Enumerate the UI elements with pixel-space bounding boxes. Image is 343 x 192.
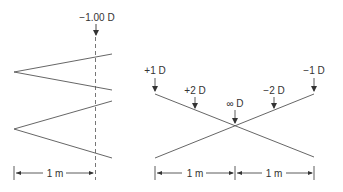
label-infinity-d: ∞ D <box>226 98 243 109</box>
ray-upper-1 <box>14 54 112 72</box>
distance-scale-left: 1 m <box>14 166 94 180</box>
right-panel: +1 D +2 D ∞ D −2 D −1 D 1 m 1 m <box>144 65 324 180</box>
label-minus-1d: −1 D <box>303 65 324 76</box>
ray-upper-2 <box>14 101 112 129</box>
ray-lower-2 <box>14 129 112 158</box>
vergence-diagram: −1.00 D 1 m +1 D +2 D ∞ D −2 D −1 D <box>0 0 343 192</box>
ray-lower-1 <box>14 72 112 90</box>
scale-label-right: 1 m <box>266 168 283 179</box>
focal-point-label: −1.00 D <box>79 12 114 23</box>
scale-label-left: 1 m <box>187 168 204 179</box>
label-plus-2d: +2 D <box>184 85 205 96</box>
label-plus-1d: +1 D <box>144 65 165 76</box>
label-minus-2d: −2 D <box>263 85 284 96</box>
distance-scale-right: 1 m 1 m <box>155 166 314 180</box>
left-panel: −1.00 D 1 m <box>14 12 115 180</box>
scale-label: 1 m <box>47 168 64 179</box>
